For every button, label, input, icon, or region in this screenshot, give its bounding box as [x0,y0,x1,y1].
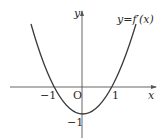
origin-label: O [73,89,82,102]
function-graph: y y=f′(x) −1 O 1 x −1 [0,0,165,138]
tick-label-x-pos-one: 1 [112,89,119,102]
function-label: y=f′(x) [116,13,154,26]
y-axis-label: y [73,7,81,20]
x-axis-label: x [148,89,155,102]
tick-label-y-neg-one: −1 [67,116,83,129]
tick-label-x-neg-one: −1 [40,89,56,102]
